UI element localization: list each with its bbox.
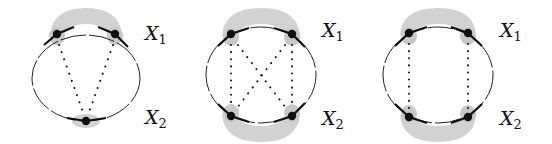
vertex [405,113,413,121]
label-x2: X2 [145,106,167,131]
vertex [288,30,296,38]
label-x2: X2 [500,107,522,132]
vertex [464,113,472,121]
diagram-1 [32,8,140,128]
diagram-3 [383,8,493,142]
vertex [464,29,472,37]
diagram-2 [206,8,316,142]
vertex [405,29,413,37]
label-x1: X1 [145,22,167,47]
diagram-canvas [0,0,552,144]
vertex [82,117,90,125]
circle [32,35,140,121]
dotted-connection [237,45,285,108]
vertex [227,30,235,38]
vertex [53,30,61,38]
vertex [288,112,296,120]
label-x1: X1 [500,19,522,44]
vertex [111,30,119,38]
dotted-connection [59,45,83,112]
vertex [227,112,235,120]
dotted-connection [89,45,113,112]
dotted-connection [238,45,286,108]
label-x1: X1 [322,19,344,44]
label-x2: X2 [322,107,344,132]
